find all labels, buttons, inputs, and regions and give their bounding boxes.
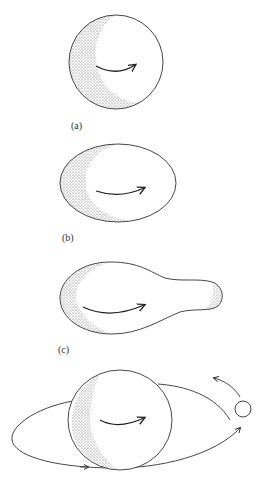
- caption-fragment: [0, 478, 262, 488]
- panel-label-a: (a): [71, 120, 82, 131]
- panel-c-pear: [60, 262, 222, 334]
- panel-a-sphere: [69, 15, 163, 109]
- panel-label-b: (b): [62, 232, 74, 243]
- panel-label-c: (c): [58, 344, 69, 355]
- figure-canvas: [0, 0, 262, 488]
- satellite-motion-arrow-icon: [214, 378, 240, 397]
- panel-b-ellipsoid: [60, 144, 176, 222]
- panel-d-satellite: [12, 370, 251, 470]
- satellite-moon: [235, 401, 251, 417]
